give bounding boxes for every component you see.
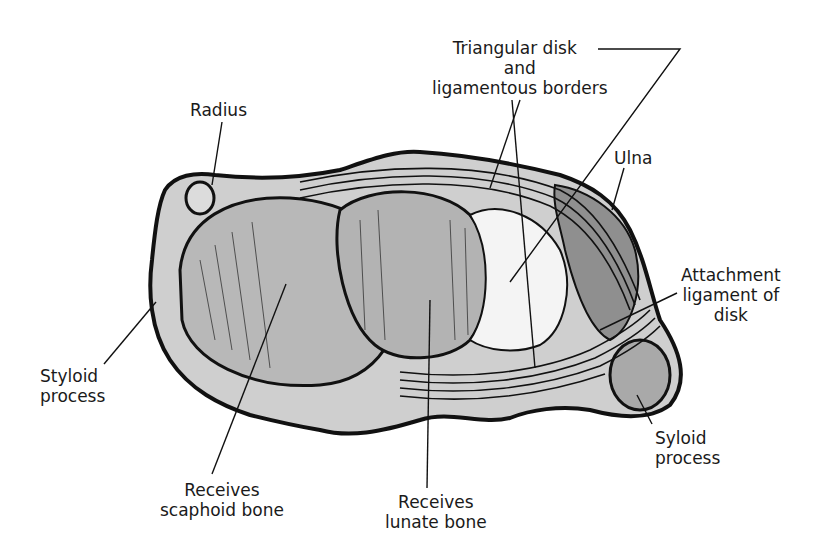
label-line: scaphoid bone [160,500,284,520]
label-triangular-disk: Triangular disk and ligamentous borders [432,38,608,98]
label-line: process [655,448,720,468]
label-radius: Radius [190,100,247,120]
label-line: ligamentous borders [432,78,608,98]
label-line: and [432,58,608,78]
label-styloid-left: Styloid process [40,366,105,406]
label-styloid-right: Syloid process [655,428,720,468]
label-line: Attachment [681,265,781,285]
label-ulna: Ulna [614,148,652,168]
label-line: process [40,386,105,406]
label-line: lunate bone [385,512,487,532]
label-line: Receives [160,480,284,500]
label-line: Styloid [40,366,105,386]
label-attachment-ligament: Attachment ligament of disk [681,265,781,325]
label-line: Ulna [614,148,652,168]
label-line: disk [681,305,781,325]
label-line: Syloid [655,428,720,448]
label-scaphoid: Receives scaphoid bone [160,480,284,520]
label-line: Receives [385,492,487,512]
label-line: Radius [190,100,247,120]
label-lunate: Receives lunate bone [385,492,487,532]
label-line: ligament of [681,285,781,305]
radius-tubercle [186,182,214,214]
label-line: Triangular disk [422,38,608,58]
